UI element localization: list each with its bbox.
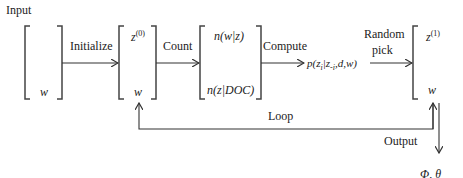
updated-z-sup: (1) [431,29,440,38]
output-result: Φ, θ [420,168,441,178]
gibbs-sampling-diagram: Input w Initialize z(0) w Count n(w|z) n… [0,0,463,178]
count-n-z-doc: n(z|DOC) [207,84,254,96]
loop-label: Loop [268,110,293,122]
random-label: Random [364,28,405,40]
initialize-label: Initialize [70,40,113,52]
prob-mid: |z [323,57,330,69]
updated-w: w [428,84,436,96]
prob-p: p(z [307,57,320,69]
compute-label: Compute [263,40,307,52]
count-label: Count [163,40,192,52]
output-label: Output [384,135,417,147]
input-w: w [40,86,48,98]
pick-label: pick [372,44,393,56]
prob-tail: ,d,w) [335,57,357,69]
probability-formula: p(zi|z-i,d,w) [307,58,357,72]
updated-z: z(1) [426,30,440,43]
count-n-w-z: n(w|z) [214,30,244,42]
initial-z-sup: (0) [136,29,145,38]
input-label: Input [6,4,31,16]
initial-z: z(0) [131,30,145,43]
initial-w: w [134,86,142,98]
updated-bracket [413,26,418,99]
